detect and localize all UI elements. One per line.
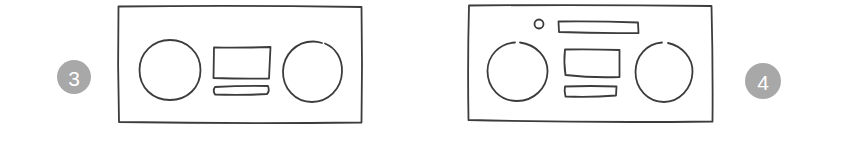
right-speaker-circle [283, 42, 342, 103]
left-speaker-circle [488, 43, 548, 102]
badge-label: 4 [757, 71, 769, 94]
sketch-panel-3 [118, 6, 362, 123]
sketch-panel-4 [468, 5, 713, 122]
cassette-slot-bar [565, 86, 617, 97]
step-badge-3: 3 [57, 60, 91, 94]
right-speaker-circle [636, 43, 693, 103]
cassette-slot-bar [214, 86, 269, 95]
step-badge-4: 4 [745, 63, 781, 99]
small-knob-circle [535, 20, 544, 29]
center-display-rect [564, 49, 619, 77]
outer-frame [468, 5, 713, 122]
wireframe-figure: 3 4 [0, 0, 843, 164]
badge-label: 3 [68, 67, 80, 90]
center-display-rect [214, 47, 271, 79]
left-speaker-circle [140, 40, 201, 100]
top-handle-bar [559, 21, 639, 33]
outer-frame [118, 6, 362, 123]
